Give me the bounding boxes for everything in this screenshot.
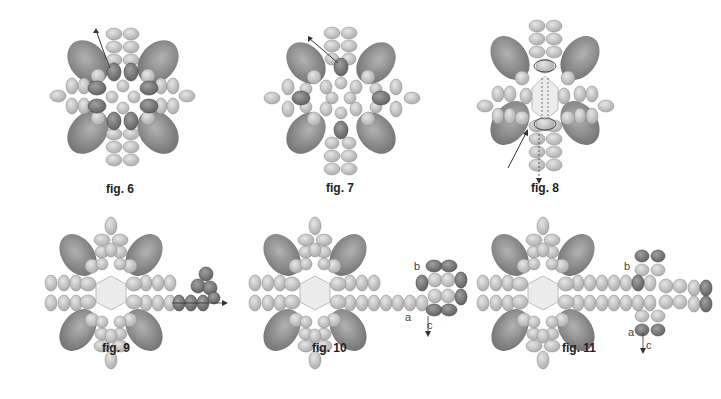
figure-caption: fig. 7 [326, 181, 354, 195]
figure-caption: fig. 10 [312, 341, 347, 355]
figure-6: fig. 6 [40, 20, 210, 170]
label-b: b [624, 260, 630, 272]
label-a: a [405, 311, 412, 323]
figure-8: fig. 8 [480, 18, 620, 188]
figure-10: b a c fig. 10 [250, 208, 470, 378]
label-c: c [646, 339, 652, 351]
figure-caption: fig. 9 [102, 341, 130, 355]
bead-diagram-fig7 [262, 25, 432, 175]
bead-diagram-fig11: b a c [478, 208, 721, 378]
figure-7: fig. 7 [262, 25, 432, 175]
figure-caption: fig. 8 [531, 181, 559, 195]
figure-caption: fig. 11 [562, 341, 596, 355]
label-a: a [628, 326, 635, 338]
bead-diagram-fig10: b a c [250, 208, 470, 378]
figure-9: fig. 9 [38, 208, 228, 378]
bead-diagram-fig8 [480, 18, 620, 188]
bead-diagram-fig6 [40, 20, 210, 170]
label-b: b [414, 260, 420, 272]
figure-11: b a c fig. 11 [478, 208, 721, 378]
bead-diagram-fig9 [38, 208, 228, 378]
figure-caption: fig. 6 [106, 182, 134, 196]
